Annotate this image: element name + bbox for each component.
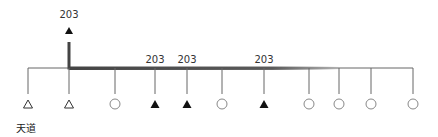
riser-line — [68, 42, 71, 70]
open-circle-icon — [110, 99, 120, 109]
thick-segment — [69, 67, 340, 71]
filled-triangle-icon — [151, 100, 160, 108]
open-circle-icon — [217, 99, 227, 109]
timeline-diagram: 203203203203 天道 — [0, 0, 438, 137]
open-triangle-icon — [24, 100, 33, 108]
open-circle-icon — [334, 99, 344, 109]
value-label: 203 — [59, 9, 78, 20]
value-label: 203 — [177, 54, 196, 65]
open-circle-icon — [408, 99, 418, 109]
value-label: 203 — [254, 54, 273, 65]
filled-triangle-icon — [183, 100, 192, 108]
open-circle-icon — [366, 99, 376, 109]
open-circle-icon — [304, 99, 314, 109]
filled-triangle-icon — [260, 100, 269, 108]
open-triangle-icon — [65, 100, 74, 108]
caption-label: 天道 — [16, 120, 36, 135]
value-label: 203 — [145, 54, 164, 65]
filled-triangle-icon — [65, 27, 73, 34]
timeline-svg — [0, 0, 438, 137]
